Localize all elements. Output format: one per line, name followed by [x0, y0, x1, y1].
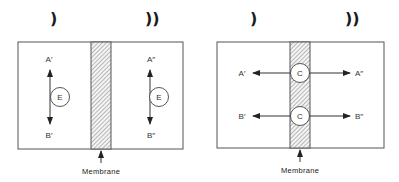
enzyme-label: E — [57, 93, 62, 102]
compartment-prime-symbol: ) — [50, 9, 57, 28]
carrier-label: C — [297, 112, 303, 121]
carrier-label: C — [297, 69, 303, 78]
label-b-double-prime: B″ — [147, 131, 155, 140]
membrane — [290, 42, 310, 148]
compartment-double-prime-symbol: )) — [345, 9, 360, 28]
enzyme-label: E — [156, 93, 161, 102]
carrier-diagram: ) )) C A′ A″ C B′ B″ Membrane — [217, 9, 384, 175]
label-a-prime: A′ — [46, 55, 53, 64]
membrane-label: Membrane — [82, 167, 120, 176]
label-b-prime: B′ — [46, 131, 53, 140]
label-a-prime: A′ — [239, 69, 246, 78]
compartment-prime-symbol: ) — [250, 9, 257, 28]
enzyme-diagram: ) )) E A′ B′ E A″ B″ Membrane — [18, 9, 183, 176]
membrane-label: Membrane — [281, 166, 319, 175]
label-a-double-prime: A″ — [147, 55, 155, 64]
label-b-prime: B′ — [239, 112, 246, 121]
membrane — [91, 42, 111, 149]
label-a-double-prime: A″ — [355, 69, 363, 78]
compartment-double-prime-symbol: )) — [145, 9, 160, 28]
label-b-double-prime: B″ — [355, 112, 363, 121]
